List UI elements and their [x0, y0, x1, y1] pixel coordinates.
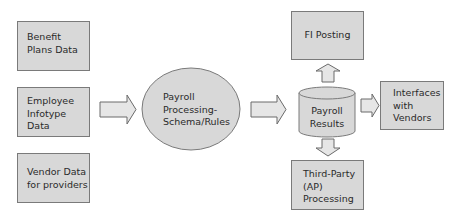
box-line: for providers [27, 179, 89, 192]
box-line: with [393, 100, 443, 113]
interfaces-with-vendors-box: Interfaces with Vendors [380, 81, 444, 130]
payroll-processing-label: Payroll Processing- Schema/Rules [163, 91, 230, 129]
employee-infotype-data-box: Employee Infotype Data [17, 87, 90, 137]
arrow-right-icon [100, 95, 136, 124]
box-line: Plans Data [27, 44, 89, 57]
box-line: Employee [27, 95, 89, 108]
ellipse-line: Schema/Rules [163, 116, 230, 129]
box-line: Third-Party [303, 168, 363, 181]
box-line: Benefit [27, 31, 89, 44]
vendor-data-box: Vendor Data for providers [17, 153, 90, 203]
benefit-plans-data-box: Benefit Plans Data [17, 21, 90, 71]
box-line: Vendors [393, 112, 443, 125]
cylinder-line: Results [299, 118, 355, 131]
box-line: Processing [303, 193, 363, 206]
box-line: Interfaces [393, 87, 443, 100]
ellipse-line: Payroll [163, 91, 230, 104]
box-line: Vendor Data [27, 166, 89, 179]
arrow-right-icon [251, 95, 286, 124]
box-line: (AP) [303, 181, 363, 194]
ellipse-line: Processing- [163, 104, 230, 117]
box-line: FI Posting [305, 29, 351, 42]
third-party-processing-box: Third-Party (AP) Processing [291, 160, 364, 210]
arrow-up-icon [316, 64, 340, 82]
box-line: Infotype [27, 108, 89, 121]
fi-posting-box: FI Posting [291, 11, 364, 60]
arrow-right-icon [361, 94, 379, 117]
box-line: Data [27, 120, 89, 133]
arrow-down-icon [316, 139, 340, 156]
cylinder-line: Payroll [299, 105, 355, 118]
payroll-results-label: Payroll Results [299, 105, 355, 130]
